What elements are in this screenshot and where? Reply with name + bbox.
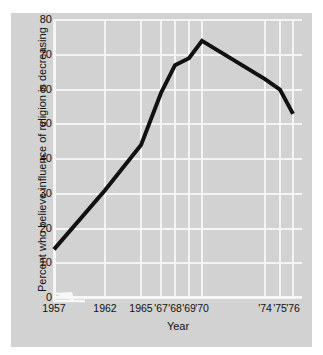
y-tick-label: 50 [26, 118, 52, 129]
y-tick-label: 30 [26, 188, 52, 199]
y-tick-label: 10 [26, 257, 52, 268]
x-tick-label: '76 [273, 302, 313, 314]
plot-area [54, 20, 302, 298]
y-tick-label: 70 [26, 49, 52, 60]
x-tick-label: 1962 [85, 302, 125, 314]
y-tick-label: 60 [26, 84, 52, 95]
x-tick-label: 1957 [34, 302, 74, 314]
x-axis-label: Year [54, 320, 302, 332]
data-line-series [54, 20, 302, 298]
y-tick-label: 40 [26, 153, 52, 164]
y-axis-tick-labels: 80706050403020100 [22, 20, 52, 298]
x-tick-label: '70 [182, 302, 222, 314]
chart-figure: Percent who believe influence of religio… [0, 0, 323, 355]
y-tick-label: 20 [26, 223, 52, 234]
series-polyline [54, 41, 293, 250]
y-tick-label: 80 [26, 14, 52, 25]
x-axis-tick-labels: 195719621965'67'68'69'70'74'75'76 [54, 302, 302, 318]
